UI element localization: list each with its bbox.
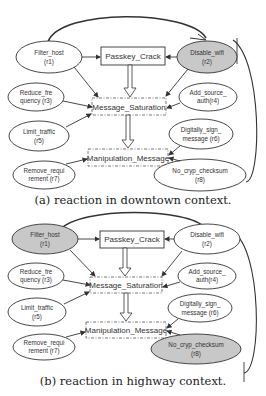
reaction-r1 xyxy=(12,224,78,254)
svg-text:Filter_host: Filter_host xyxy=(30,231,60,239)
svg-text:No_cryp_checksum: No_cryp_checksum xyxy=(168,341,223,349)
diagram-highway: Passkey_Crack Message_Saturation Manipul… xyxy=(0,210,266,396)
svg-text:quency (r3): quency (r3) xyxy=(20,97,52,105)
svg-text:(r5): (r5) xyxy=(32,313,42,321)
svg-text:Passkey_Crack: Passkey_Crack xyxy=(104,235,161,244)
reaction-r2 xyxy=(174,224,240,254)
reaction-r1 xyxy=(16,41,82,73)
svg-text:Add_source_: Add_source_ xyxy=(188,268,226,276)
svg-text:(r8): (r8) xyxy=(191,350,201,358)
reaction-r8 xyxy=(151,334,241,364)
svg-text:Digitally_sign_: Digitally_sign_ xyxy=(180,300,221,308)
svg-text:auth(r4): auth(r4) xyxy=(196,276,218,284)
svg-text:rement (r7): rement (r7) xyxy=(28,175,59,183)
reaction-r6 xyxy=(169,119,233,149)
diagram-downtown: Passkey_Crack Message_Saturation Manipul… xyxy=(0,0,266,196)
svg-text:(r1): (r1) xyxy=(44,58,54,66)
svg-text:Message_Saturation: Message_Saturation xyxy=(89,281,162,290)
curve-arrow-r1-r2 xyxy=(48,17,206,42)
svg-text:Disable_wifi: Disable_wifi xyxy=(190,231,224,239)
svg-text:No_cryp_checksum: No_cryp_checksum xyxy=(172,167,227,175)
svg-text:(r8): (r8) xyxy=(195,176,205,184)
panel-highway: Passkey_Crack Message_Saturation Manipul… xyxy=(0,210,266,396)
svg-text:Add_source_: Add_source_ xyxy=(189,89,227,97)
svg-text:(r5): (r5) xyxy=(34,137,44,145)
svg-text:rement (r7): rement (r7) xyxy=(28,347,59,355)
svg-text:Passkey_Crack: Passkey_Crack xyxy=(105,52,162,61)
caption-downtown: (a) reaction in downtown context. xyxy=(0,193,266,207)
reaction-r8 xyxy=(154,159,246,191)
caption-highway: (b) reaction in highway context. xyxy=(0,374,266,388)
svg-text:Filter_host: Filter_host xyxy=(34,49,64,57)
svg-text:Digitally_sign_: Digitally_sign_ xyxy=(181,126,222,134)
svg-text:Message_Saturation: Message_Saturation xyxy=(92,103,165,112)
svg-text:message (r6): message (r6) xyxy=(181,309,218,317)
svg-text:message (r6): message (r6) xyxy=(182,135,219,143)
svg-text:Limit_traffic: Limit_traffic xyxy=(21,304,53,312)
svg-text:Manipulation_Message: Manipulation_Message xyxy=(85,326,168,335)
reaction-r2 xyxy=(177,41,237,73)
svg-text:Disable_wifi: Disable_wifi xyxy=(190,49,224,57)
svg-text:(r1): (r1) xyxy=(40,240,50,248)
svg-text:Reduce_fre: Reduce_fre xyxy=(20,89,53,97)
reaction-r6 xyxy=(168,294,232,322)
svg-text:(r2): (r2) xyxy=(202,240,212,248)
svg-text:Reduce_fre: Reduce_fre xyxy=(20,268,53,276)
svg-text:Manipulation_Message: Manipulation_Message xyxy=(87,154,170,163)
svg-text:quency (r3): quency (r3) xyxy=(20,276,52,284)
curve-arrow-r2-r1 xyxy=(60,213,205,231)
svg-text:auth(r4): auth(r4) xyxy=(197,97,219,105)
panel-downtown: Passkey_Crack Message_Saturation Manipul… xyxy=(0,0,266,196)
svg-text:Remove_requi: Remove_requi xyxy=(24,167,65,175)
reaction-r5 xyxy=(8,298,66,326)
svg-text:Remove_requi: Remove_requi xyxy=(24,339,65,347)
svg-text:(r2): (r2) xyxy=(202,58,212,66)
reaction-r5 xyxy=(9,121,69,151)
svg-text:Limit_traffic: Limit_traffic xyxy=(23,128,55,136)
